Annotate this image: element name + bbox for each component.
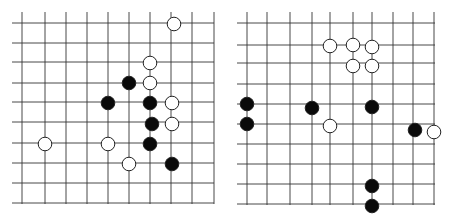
white-stone [365,40,379,54]
black-stone [240,117,254,131]
black-stone [365,179,379,193]
black-stone [122,76,136,90]
white-stone [38,137,52,151]
white-stone [346,38,360,52]
go-board-right [237,12,452,218]
black-stone [143,137,157,151]
white-stone [165,96,179,110]
white-stone [165,117,179,131]
white-stone [143,76,157,90]
black-stone [101,96,115,110]
black-stone [145,117,159,131]
go-board-left [12,12,227,218]
white-stone [427,125,441,139]
right-board-grid [237,12,452,218]
black-stone [365,199,379,213]
black-stone [365,100,379,114]
black-stone [305,101,319,115]
white-stone [365,59,379,73]
black-stone [240,97,254,111]
white-stone [122,157,136,171]
black-stone [408,123,422,137]
white-stone [143,56,157,70]
white-stone [167,17,181,31]
white-stone [323,119,337,133]
black-stone [165,157,179,171]
black-stone [143,96,157,110]
white-stone [101,137,115,151]
white-stone [323,39,337,53]
white-stone [346,59,360,73]
left-board-grid [12,12,227,218]
